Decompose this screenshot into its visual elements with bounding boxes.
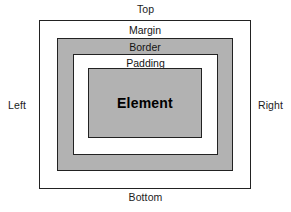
edge-label-bottom: Bottom	[0, 192, 291, 203]
padding-box-label: Padding	[74, 58, 217, 69]
border-box-label: Border	[58, 42, 232, 53]
edge-label-top: Top	[0, 4, 291, 15]
padding-box: Padding Element	[73, 54, 218, 155]
margin-box: Margin Border Padding Element	[39, 20, 251, 189]
border-box: Border Padding Element	[57, 38, 233, 171]
edge-label-right: Right	[258, 100, 283, 111]
box-model-diagram: Top Left Right Bottom Margin Border Padd…	[0, 0, 291, 212]
element-box: Element	[88, 68, 202, 138]
edge-label-left: Left	[8, 100, 26, 111]
element-box-label: Element	[89, 69, 201, 137]
margin-box-label: Margin	[40, 25, 250, 36]
